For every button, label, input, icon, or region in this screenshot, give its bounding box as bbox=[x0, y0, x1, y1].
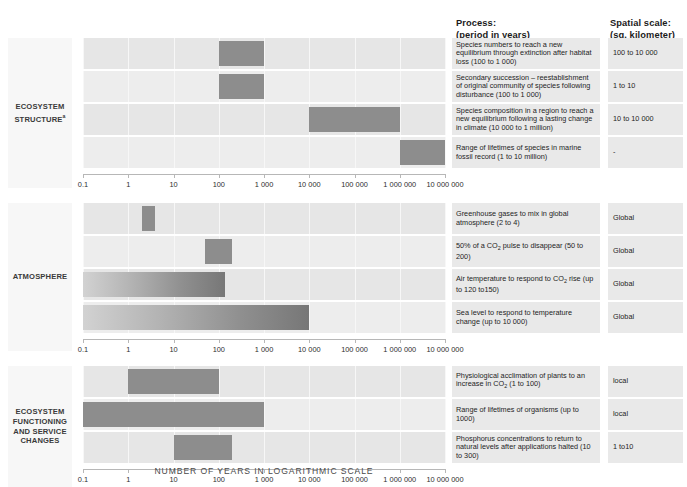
axis-tick-label: 100 000 bbox=[341, 475, 368, 484]
process-text: Species numbers to reach a new equilibri… bbox=[456, 41, 596, 67]
section-ecosystem-structure: ECOSYSTEM STRUCTUREa0.11101001 00010 000… bbox=[0, 38, 687, 188]
text-columns-0: Species numbers to reach a new equilibri… bbox=[452, 38, 687, 188]
table-row: Phosphorus concentrations to return to n… bbox=[452, 432, 687, 463]
axis-tick-label: 10 000 bbox=[298, 475, 321, 484]
process-cell: Phosphorus concentrations to return to n… bbox=[452, 432, 600, 463]
axis-tick-label: 10 000 bbox=[298, 345, 321, 354]
axis-tick bbox=[128, 339, 129, 343]
process-cell: Secondary succession – reestablishment o… bbox=[452, 71, 600, 102]
spatial-scale-text: 100 to 10 000 bbox=[613, 49, 658, 58]
text-columns-1: Greenhouse gases to mix in global atmosp… bbox=[452, 203, 687, 351]
section-label-footnote-marker: a bbox=[63, 113, 66, 119]
axis-tick-label: 1 000 bbox=[255, 345, 274, 354]
process-cell: 50% of a CO2 pulse to disappear (50 to 2… bbox=[452, 236, 600, 267]
spatial-scale-cell: 1 to10 bbox=[608, 432, 683, 463]
axis-tick bbox=[355, 339, 356, 343]
spatial-scale-text: local bbox=[613, 377, 628, 386]
axis-tick-label: 1 000 bbox=[255, 475, 274, 484]
table-row: Sea level to respond to temperature chan… bbox=[452, 302, 687, 333]
table-row: Secondary succession – reestablishment o… bbox=[452, 71, 687, 102]
spatial-scale-cell: local bbox=[608, 366, 683, 397]
plot-area-0 bbox=[83, 38, 445, 188]
section-label-1: ATMOSPHERE bbox=[8, 203, 72, 351]
bar-row bbox=[83, 71, 445, 102]
spatial-scale-text: local bbox=[613, 410, 628, 419]
gridlines bbox=[83, 137, 445, 168]
axis-tick bbox=[445, 469, 446, 473]
axis-tick bbox=[400, 174, 401, 178]
process-text: Species composition in a region to reach… bbox=[456, 107, 596, 133]
bar-row bbox=[83, 38, 445, 69]
axis-tick-label: 1 bbox=[126, 475, 130, 484]
section-label-text: ECOSYSTEM FUNCTIONING AND SERVICE CHANGE… bbox=[8, 407, 72, 445]
section-label-2: ECOSYSTEM FUNCTIONING AND SERVICE CHANGE… bbox=[8, 366, 72, 487]
axis-title: NUMBER OF YEARS IN LOGARITHMIC SCALE bbox=[83, 466, 445, 476]
range-bar bbox=[142, 206, 156, 231]
spatial-scale-cell: Global bbox=[608, 236, 683, 267]
axis-tick bbox=[445, 174, 446, 178]
axis-tick bbox=[83, 339, 84, 343]
text-columns-2: Physiological acclimation of plants to a… bbox=[452, 366, 687, 487]
axis-tick-label: 1 000 bbox=[255, 180, 274, 189]
spatial-scale-cell: Global bbox=[608, 269, 683, 300]
table-row: Greenhouse gases to mix in global atmosp… bbox=[452, 203, 687, 234]
axis-tick-label: 1 bbox=[126, 180, 130, 189]
bar-row bbox=[83, 104, 445, 135]
axis-tick-label: 10 bbox=[169, 475, 177, 484]
range-bar bbox=[309, 107, 400, 132]
process-text: Physiological acclimation of plants to a… bbox=[456, 372, 596, 392]
table-row: Species composition in a region to reach… bbox=[452, 104, 687, 135]
process-text: Sea level to respond to temperature chan… bbox=[456, 309, 596, 326]
axis-tick-label: 0.1 bbox=[78, 345, 88, 354]
section-label-text: ECOSYSTEM STRUCTUREa bbox=[8, 102, 72, 124]
range-bar bbox=[83, 402, 264, 427]
x-axis-1: 0.11101001 00010 000100 0001 000 00010 0… bbox=[83, 339, 445, 361]
bar-rows bbox=[83, 38, 445, 170]
axis-tick-label: 10 000 bbox=[298, 180, 321, 189]
axis-tick-label: 100 bbox=[213, 180, 225, 189]
axis-tick-label: 10 bbox=[169, 345, 177, 354]
bar-row bbox=[83, 203, 445, 234]
section-label-text: ATMOSPHERE bbox=[13, 272, 68, 282]
process-cell: Greenhouse gases to mix in global atmosp… bbox=[452, 203, 600, 234]
process-cell: Physiological acclimation of plants to a… bbox=[452, 366, 600, 397]
axis-tick bbox=[219, 174, 220, 178]
section-label-0: ECOSYSTEM STRUCTUREa bbox=[8, 38, 72, 188]
spatial-scale-cell: Global bbox=[608, 203, 683, 234]
bar-row bbox=[83, 302, 445, 333]
process-text: 50% of a CO2 pulse to disappear (50 to 2… bbox=[456, 242, 596, 262]
spatial-scale-cell: local bbox=[608, 399, 683, 430]
spatial-header-line1: Spatial scale: bbox=[610, 18, 675, 30]
process-text: Secondary succession – reestablishment o… bbox=[456, 74, 596, 100]
bar-row bbox=[83, 269, 445, 300]
table-row: Species numbers to reach a new equilibri… bbox=[452, 38, 687, 69]
spatial-scale-cell: - bbox=[608, 137, 683, 168]
axis-tick-label: 0.1 bbox=[78, 180, 88, 189]
axis-tick bbox=[174, 174, 175, 178]
bar-row bbox=[83, 366, 445, 397]
range-bar bbox=[83, 305, 309, 330]
process-cell: Species composition in a region to reach… bbox=[452, 104, 600, 135]
axis-tick-label: 100 000 bbox=[341, 345, 368, 354]
range-bar bbox=[205, 239, 232, 264]
bar-row bbox=[83, 399, 445, 430]
axis-tick bbox=[174, 339, 175, 343]
axis-tick bbox=[400, 339, 401, 343]
gridlines bbox=[83, 203, 445, 234]
axis-tick bbox=[309, 174, 310, 178]
table-row: Air temperature to respond to CO2 rise (… bbox=[452, 269, 687, 300]
range-bar bbox=[219, 41, 264, 66]
table-row: Range of lifetimes of species in marine … bbox=[452, 137, 687, 168]
axis-tick-label: 1 000 000 bbox=[383, 180, 416, 189]
axis-tick-label: 1 000 000 bbox=[383, 475, 416, 484]
x-axis-0: 0.11101001 00010 000100 0001 000 00010 0… bbox=[83, 174, 445, 196]
process-cell: Species numbers to reach a new equilibri… bbox=[452, 38, 600, 69]
spatial-scale-text: - bbox=[613, 148, 615, 157]
range-bar bbox=[219, 74, 264, 99]
bar-rows bbox=[83, 366, 445, 465]
axis-tick bbox=[309, 339, 310, 343]
process-cell: Sea level to respond to temperature chan… bbox=[452, 302, 600, 333]
spatial-scale-text: 1 to10 bbox=[613, 443, 633, 452]
table-row: Physiological acclimation of plants to a… bbox=[452, 366, 687, 397]
gridlines bbox=[83, 432, 445, 463]
